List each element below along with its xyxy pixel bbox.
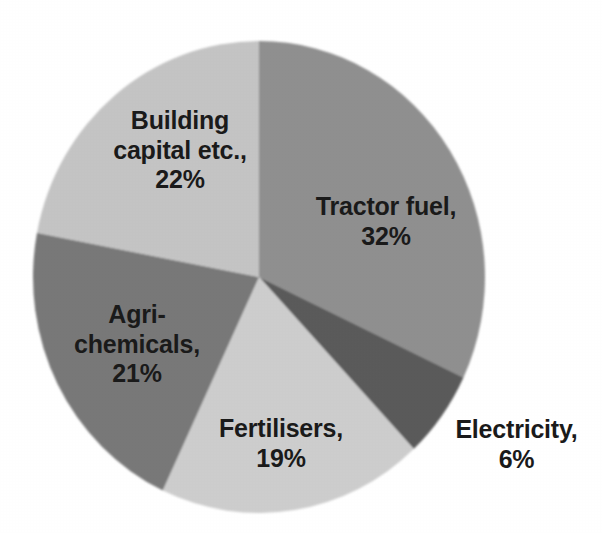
pie-label-building-capital: Building capital etc., 22%: [80, 106, 280, 195]
pie-label-tractor-fuel: Tractor fuel, 32%: [296, 192, 476, 251]
pie-label-agri-chemicals: Agri- chemicals, 21%: [52, 300, 222, 389]
pie-label-electricity: Electricity, 6%: [434, 415, 599, 474]
pie-label-fertilisers: Fertilisers, 19%: [196, 414, 366, 473]
pie-chart-figure: Tractor fuel, 32% Building capital etc.,…: [0, 0, 602, 533]
